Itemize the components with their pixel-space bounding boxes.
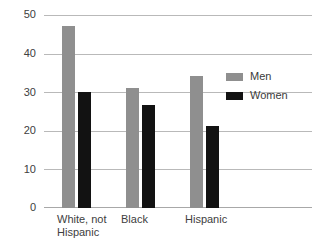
- y-tick-label-0: 0: [8, 202, 36, 213]
- legend-item-women: Women: [226, 88, 288, 103]
- plot-area: [44, 15, 312, 208]
- y-tick-label-30: 30: [8, 87, 36, 98]
- bar-women-white-not-hispanic: [78, 92, 91, 208]
- legend-label-men: Men: [250, 69, 271, 84]
- bar-men-hispanic: [190, 76, 203, 208]
- gridline-40: [44, 54, 312, 55]
- legend-item-men: Men: [226, 69, 288, 84]
- women-swatch-icon: [226, 92, 243, 100]
- legend: Men Women: [226, 69, 288, 107]
- x-label-hispanic: Hispanic: [185, 213, 227, 226]
- gridline-50: [44, 15, 312, 16]
- y-tick-label-40: 40: [8, 48, 36, 59]
- x-label-black: Black: [121, 213, 148, 226]
- legend-label-women: Women: [250, 88, 288, 103]
- men-swatch-icon: [226, 73, 243, 81]
- bar-chart: 50 40 30 20 10 0 White, not Hispanic Bla…: [0, 0, 326, 244]
- bar-men-black: [126, 88, 139, 208]
- bar-men-white-not-hispanic: [62, 26, 75, 208]
- y-tick-label-10: 10: [8, 164, 36, 175]
- y-tick-label-20: 20: [8, 125, 36, 136]
- x-label-white-not-hispanic: White, not Hispanic: [57, 213, 107, 239]
- y-tick-label-50: 50: [8, 9, 36, 20]
- bar-women-hispanic: [206, 126, 219, 208]
- bar-women-black: [142, 105, 155, 208]
